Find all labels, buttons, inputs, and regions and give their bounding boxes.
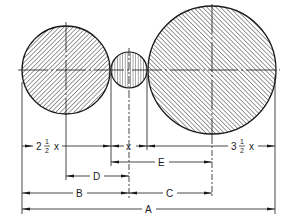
- three-circles-dimension-diagram: 2 1 2 x x 3 1 2 x E D B C A: [0, 0, 292, 224]
- left-diameter-whole: 2: [36, 141, 42, 152]
- right-diameter-var: x: [249, 141, 254, 152]
- label-A: A: [145, 204, 152, 215]
- right-diameter-denominator: 2: [240, 147, 244, 154]
- left-diameter-var: x: [54, 141, 59, 152]
- right-diameter-numerator: 1: [240, 138, 244, 145]
- left-diameter-denominator: 2: [45, 147, 49, 154]
- label-E: E: [158, 157, 165, 168]
- label-small-diameter: x: [126, 141, 131, 152]
- left-diameter-numerator: 1: [45, 138, 49, 145]
- label-D: D: [93, 171, 100, 182]
- label-B: B: [76, 188, 83, 199]
- label-right-diameter: 3 1 2 x: [231, 138, 254, 154]
- label-C: C: [166, 188, 173, 199]
- label-left-diameter: 2 1 2 x: [36, 138, 59, 154]
- right-diameter-whole: 3: [231, 141, 237, 152]
